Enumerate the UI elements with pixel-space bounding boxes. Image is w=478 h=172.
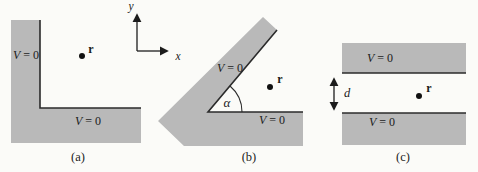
conductor-plate-c-bottom [342,113,466,145]
figure-shapes [0,0,478,172]
potential-label-a-bottom: V= 0 [75,115,101,127]
gap-distance-label: d [344,87,350,100]
field-point-dot-a [79,53,85,59]
field-point-label-b: r [277,73,282,85]
conductor-corner-a-edge [40,20,141,108]
panel-caption-b: (b) [242,151,257,164]
wedge-angle-label: α [224,96,231,109]
field-point-label-a: r [88,43,93,55]
field-point-dot-b [267,84,273,90]
conductor-plate-c-top [342,43,466,73]
field-point-dot-c [416,93,422,99]
potential-label-c-bottom: V= 0 [369,116,395,128]
panel-caption-a: (a) [71,151,85,164]
potential-label-a-left: V= 0 [13,49,39,61]
y-axis-label: y [128,1,133,13]
x-axis-label: x [175,51,180,63]
field-point-label-c: r [426,82,431,94]
potential-label-b-bottom: V= 0 [259,114,285,126]
alpha-angle-arc [230,86,242,112]
conductor-boundary-figure: y x V= 0 V= 0 r (a) V= 0 V= 0 α r (b) V=… [0,0,478,172]
potential-label-b-diagonal: V= 0 [217,62,243,74]
panel-caption-c: (c) [396,151,410,164]
potential-label-c-top: V= 0 [367,52,393,64]
